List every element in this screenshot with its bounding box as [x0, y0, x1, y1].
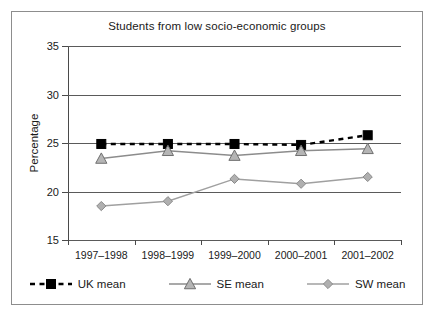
solid-line-diamond-marker [306, 278, 350, 290]
y-tick-label-30: 30 [47, 89, 59, 101]
data-point-2 [230, 174, 239, 183]
y-axis-title: Percentage [26, 46, 42, 240]
series-sw-mean [97, 172, 373, 210]
data-point-2 [230, 139, 239, 148]
data-point-1 [163, 197, 172, 206]
x-tick-label-3: 2000–2001 [275, 249, 328, 261]
y-tick-label-20: 20 [47, 186, 59, 198]
legend-label: SE mean [217, 278, 264, 290]
dashed-line-square-marker [29, 278, 73, 290]
y-tick-label-35: 35 [47, 40, 59, 52]
legend-label: SW mean [355, 278, 406, 290]
data-point-3 [297, 179, 306, 188]
x-tick-label-0: 1997–1998 [75, 249, 128, 261]
y-tick-label-15: 15 [47, 234, 59, 246]
x-tick-label-2: 1999–2000 [208, 249, 261, 261]
x-tick-label-1: 1998–1999 [142, 249, 195, 261]
x-tick-mark-2 [201, 240, 202, 245]
y-axis-title-label: Percentage [28, 114, 40, 173]
series-layer [68, 46, 401, 240]
data-point-0 [97, 139, 106, 148]
x-tick-mark-0 [68, 240, 69, 245]
chart-legend: UK meanSE meanSW mean [12, 278, 422, 290]
data-point-4 [363, 172, 372, 181]
legend-item-se-mean[interactable]: SE mean [168, 278, 264, 290]
solid-line-triangle-marker [168, 278, 212, 290]
legend-item-uk-mean[interactable]: UK mean [29, 278, 126, 290]
x-tick-mark-3 [268, 240, 269, 245]
chart-figure-frame: Students from low socio-economic groups … [11, 11, 423, 305]
data-point-4 [363, 131, 372, 140]
chart-title: Students from low socio-economic groups [12, 20, 422, 32]
series-uk-mean [97, 131, 372, 150]
plot-area: 1520253035 1997–19981998–19991999–200020… [68, 46, 401, 240]
y-tick-label-25: 25 [47, 137, 59, 149]
data-point-0 [97, 201, 106, 210]
legend-label: UK mean [78, 278, 126, 290]
x-tick-mark-5 [401, 240, 402, 245]
x-tick-label-4: 2001–2002 [341, 249, 394, 261]
gridline-15 [68, 240, 401, 241]
legend-item-sw-mean[interactable]: SW mean [306, 278, 406, 290]
x-tick-mark-4 [334, 240, 335, 245]
x-tick-mark-1 [135, 240, 136, 245]
